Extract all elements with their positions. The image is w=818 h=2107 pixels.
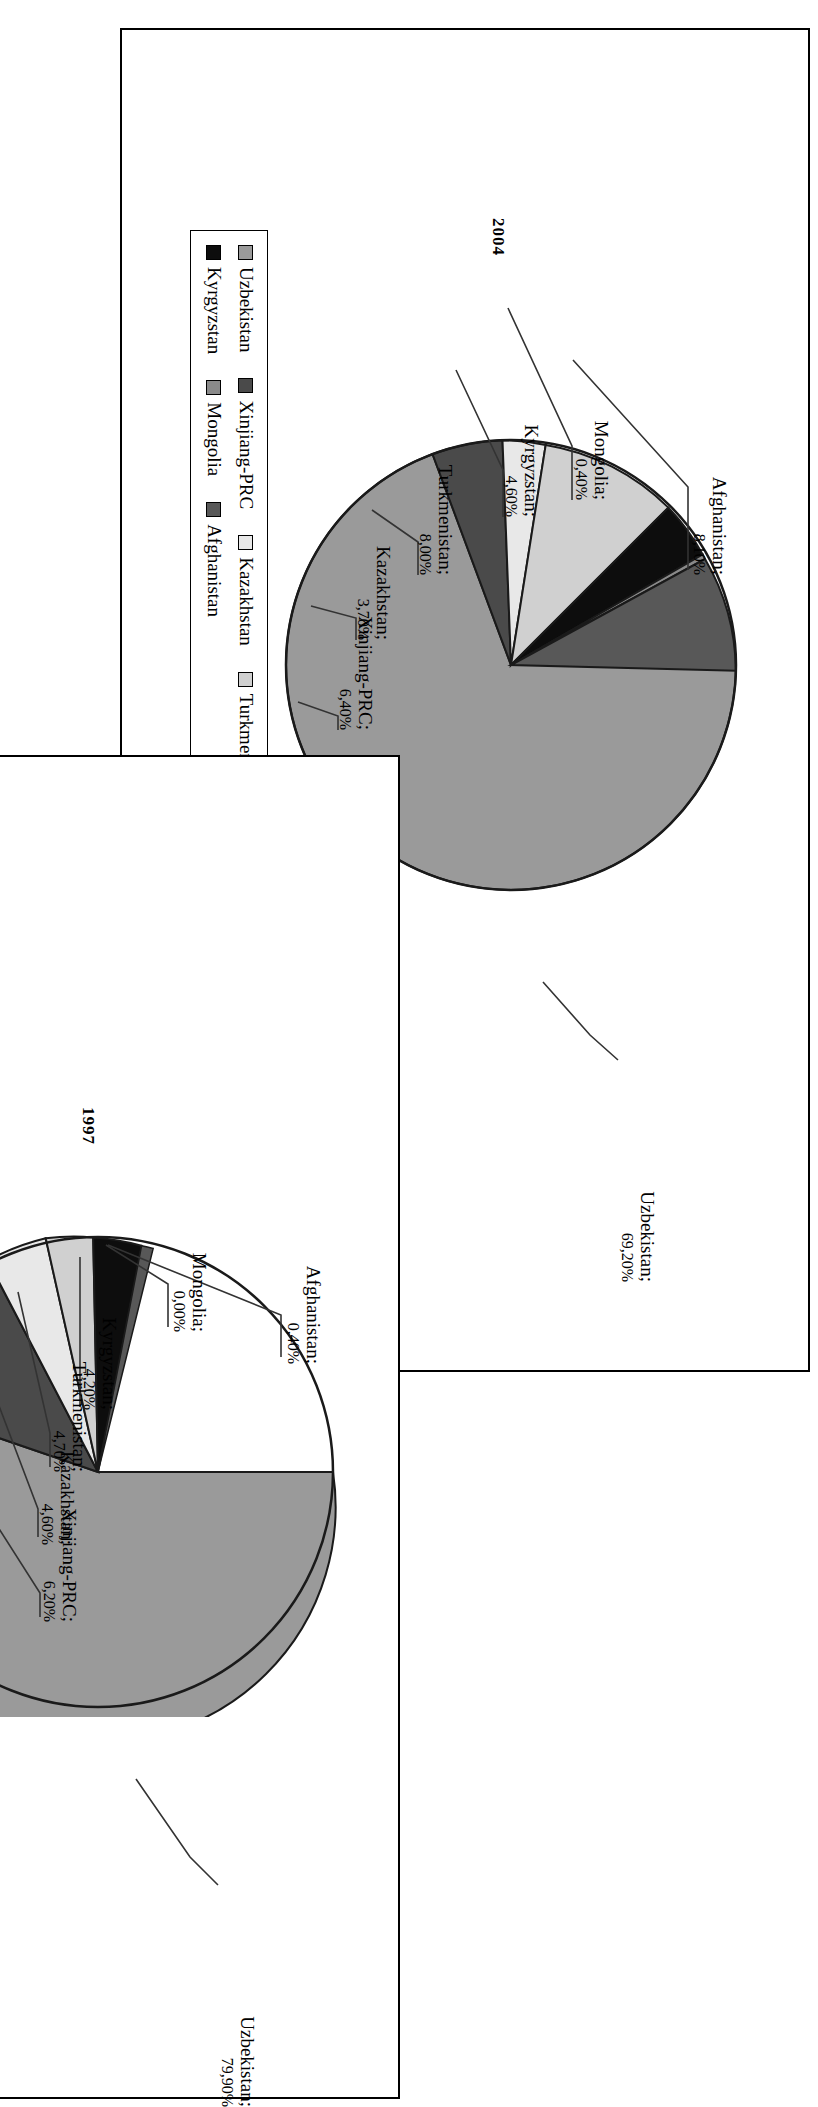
pie-label-xinjiang-prc-1997: Xinjiang-PRC; 6,20% [39, 1397, 80, 1622]
pie-label-xinjiang-prc-2004: Xinjiang-PRC; 6,40% [335, 510, 376, 730]
pie-label-afghanistan-1997: Afghanistan; 0,40% [283, 1149, 324, 1364]
legend-swatch-icon [207, 380, 222, 395]
legend-label: Mongolia [203, 402, 225, 476]
legend-item-uzbekistan[interactable]: Uzbekistan [235, 245, 257, 352]
pie-label-kyrgyzstan-2004: Kyrgyzstan; 4,60% [501, 307, 542, 517]
pie-label-name: Uzbekistan; [636, 1062, 658, 1282]
pie-label-percent: 6,20% [39, 1397, 58, 1622]
chart-title-2004: 2004 [488, 218, 508, 256]
pie-label-name: Xinjiang-PRC; [58, 1397, 80, 1622]
legend-item-kyrgyzstan[interactable]: Kyrgyzstan [203, 245, 225, 354]
pie-label-name: Afghanistan; [302, 1149, 324, 1364]
pie-label-uzbekistan-2004: Uzbekistan; 69,20% [617, 1062, 658, 1282]
pie-label-uzbekistan-1997: Uzbekistan; 79,90% [217, 1887, 258, 2107]
legend-label: Afghanistan [203, 524, 225, 617]
legend-item-mongolia[interactable]: Mongolia [203, 380, 225, 476]
legend-label: Kyrgyzstan [203, 267, 225, 354]
legend-swatch-icon [239, 672, 254, 687]
legend-swatch-icon [239, 245, 254, 260]
chart-panel-1997: 1997 [0, 755, 400, 2099]
pie-label-percent: 6,40% [335, 510, 354, 730]
pie-label-turkmenistan-2004: Turkmenistan; 8,00% [415, 360, 456, 575]
legend-item-kazakhstan[interactable]: Kazakhstan [235, 535, 257, 646]
pie-label-mongolia-1997: Mongolia; 0,00% [169, 1117, 210, 1332]
pie-label-percent: 8,10% [689, 360, 708, 575]
pie-label-name: Kyrgyzstan; [520, 307, 542, 517]
legend-item-afghanistan[interactable]: Afghanistan [203, 502, 225, 617]
legend-swatch-icon [207, 502, 222, 517]
pie-label-name: Mongolia; [188, 1117, 210, 1332]
pie-label-percent: 0,40% [571, 290, 590, 500]
pie-label-name: Afghanistan; [708, 360, 730, 575]
legend-label: Uzbekistan [235, 267, 257, 352]
pie-label-name: Turkmenistan; [434, 360, 456, 575]
pie-label-percent: 0,40% [283, 1149, 302, 1364]
legend-swatch-icon [239, 378, 254, 393]
legend-swatch-icon [239, 535, 254, 550]
legend-swatch-icon [207, 245, 222, 260]
pie-label-afghanistan-2004: Afghanistan; 8,10% [689, 360, 730, 575]
pie-label-name: Uzbekistan; [236, 1887, 258, 2107]
pie-label-percent: 69,20% [617, 1062, 636, 1282]
legend-label: Kazakhstan [235, 557, 257, 646]
pie-label-name: Kyrgyzstan; [98, 1195, 120, 1410]
pie-label-name: Xinjiang-PRC; [354, 510, 376, 730]
legend-item-xinjiang-prc[interactable]: Xinjiang-PRC [235, 378, 257, 509]
pie-label-mongolia-2004: Mongolia; 0,40% [571, 290, 612, 500]
pie-label-percent: 79,90% [217, 1887, 236, 2107]
chart-title-1997: 1997 [78, 1107, 98, 1145]
pie-label-percent: 0,00% [169, 1117, 188, 1332]
pie-label-percent: 8,00% [415, 360, 434, 575]
pie-label-percent: 4,60% [501, 307, 520, 517]
pie-label-name: Mongolia; [590, 290, 612, 500]
legend-label: Xinjiang-PRC [235, 400, 257, 509]
